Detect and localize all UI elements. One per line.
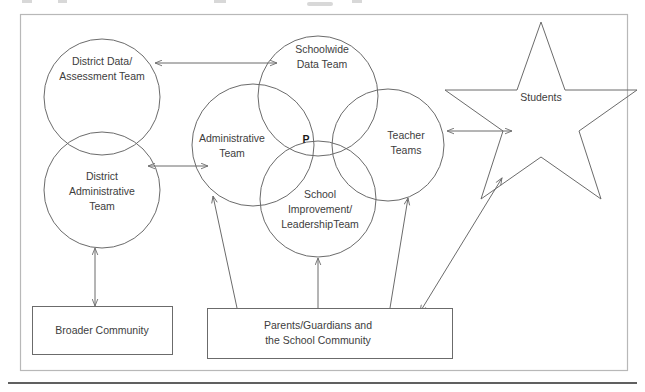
connector-parents-to-students [420, 178, 502, 312]
schoolwide-data-team-label-line-1: Schoolwide [295, 43, 349, 55]
school-improvement-label-line-1: School [304, 188, 336, 200]
school-improvement-label-line-3: LeadershipTeam [281, 218, 359, 230]
parents-guardians-school-community-box: Parents/Guardians and the School Communi… [208, 309, 453, 359]
school-improvement-label-line-2: Improvement/ [288, 203, 352, 215]
broader-community-box: Broader Community [33, 307, 173, 355]
circle-teacher-teams: Teacher Teams [332, 89, 444, 201]
connector-parents-to-administrative-team [213, 196, 237, 308]
circle-district-administrative-team: District Administrative Team [44, 132, 160, 248]
circle-district-data-assessment-team: District Data/ Assessment Team [44, 39, 160, 155]
teacher-teams-label-line-2: Teams [391, 144, 422, 156]
administrative-team-label-line-2: Team [219, 147, 245, 159]
district-data-assessment-team-label-line-1: District Data/ [72, 55, 132, 67]
administrative-team-label-line-1: Administrative [199, 132, 265, 144]
center-p-marker: P [302, 133, 309, 145]
diagram-canvas: Schoolwide Data Team --> Administrative … [0, 0, 645, 392]
students-star-label: Students [520, 91, 561, 103]
schoolwide-data-team-label-line-2: Data Team [297, 58, 348, 70]
diagram-svg: Schoolwide Data Team --> Administrative … [0, 0, 645, 392]
connector-parents-to-teacher-teams [390, 198, 408, 308]
broader-community-label: Broader Community [55, 324, 149, 336]
teacher-teams-label-line-1: Teacher [387, 129, 425, 141]
district-administrative-team-label-line-2: Administrative [69, 185, 135, 197]
top-cropped-text-artifacts [22, 0, 362, 6]
parents-guardians-label-line-1: Parents/Guardians and [264, 319, 372, 331]
parents-guardians-label-line-2: the School Community [265, 334, 371, 346]
district-administrative-team-label-line-1: District [86, 170, 118, 182]
district-administrative-team-label-line-3: Team [89, 200, 115, 212]
students-star: Students [445, 22, 637, 199]
circle-school-improvement-leadership-team: School Improvement/ LeadershipTeam [260, 141, 376, 257]
district-data-assessment-team-label-line-2: Assessment Team [59, 70, 145, 82]
